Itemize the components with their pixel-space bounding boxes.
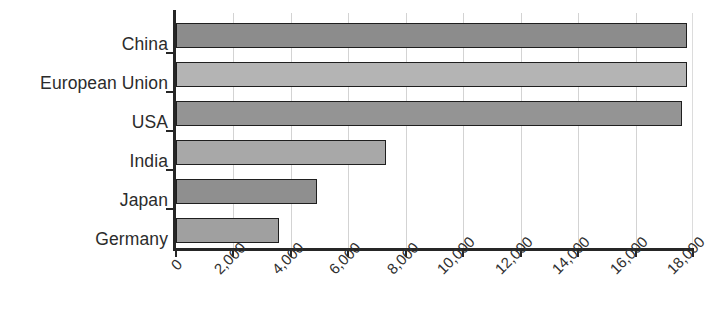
- y-axis-line: [173, 10, 176, 251]
- category-label-india: India: [0, 153, 168, 171]
- bar-european-union: [176, 62, 687, 87]
- gridline-10000: [463, 13, 464, 248]
- gridline-2000: [233, 13, 234, 248]
- category-label-european-union: European Union: [0, 75, 168, 93]
- plot-area: [176, 13, 693, 248]
- bar-china: [176, 23, 687, 48]
- gridline-18000: [692, 13, 693, 248]
- gridline-4000: [291, 13, 292, 248]
- bar-usa: [176, 101, 682, 126]
- gridline-12000: [521, 13, 522, 248]
- category-axis-labels: China European Union USA India Japan Ger…: [0, 13, 168, 248]
- category-label-japan: Japan: [0, 192, 168, 210]
- bar-chart: China European Union USA India Japan Ger…: [0, 0, 727, 327]
- gridline-16000: [636, 13, 637, 248]
- bar-germany: [176, 218, 279, 243]
- gridline-8000: [406, 13, 407, 248]
- category-label-usa: USA: [0, 114, 168, 132]
- bar-japan: [176, 179, 317, 204]
- gridline-14000: [578, 13, 579, 248]
- category-label-germany: Germany: [0, 231, 168, 249]
- bar-india: [176, 140, 386, 165]
- x-axis-label-0: 0: [168, 256, 185, 273]
- x-axis-line: [173, 248, 694, 251]
- category-label-china: China: [0, 36, 168, 54]
- gridline-6000: [348, 13, 349, 248]
- x-axis-tick: [175, 248, 177, 257]
